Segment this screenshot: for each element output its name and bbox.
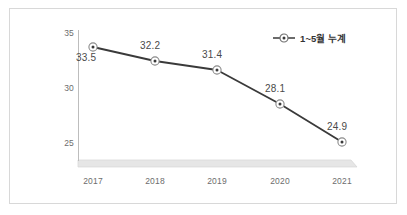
legend-marker-icon bbox=[272, 32, 296, 44]
y-tick-label-25: 25 bbox=[52, 138, 74, 148]
x-tick-label-2017: 2017 bbox=[73, 176, 113, 186]
data-point-2017 bbox=[89, 43, 97, 51]
data-point-2019 bbox=[213, 66, 221, 74]
data-label-2017: 33.5 bbox=[76, 52, 96, 63]
x-tick-label-2020: 2020 bbox=[260, 176, 300, 186]
x-tick-label-2018: 2018 bbox=[135, 176, 175, 186]
y-tick-label-35: 35 bbox=[52, 28, 74, 38]
x-tick-label-2021: 2021 bbox=[322, 176, 362, 186]
series-line-1-5month bbox=[93, 47, 342, 142]
chart-legend: 1~5월 누계 bbox=[272, 30, 346, 45]
y-tick-label-30: 30 bbox=[52, 83, 74, 93]
data-point-2020 bbox=[276, 100, 284, 108]
data-point-2021 bbox=[338, 138, 346, 146]
data-label-2018: 32.2 bbox=[140, 40, 160, 51]
data-point-2018 bbox=[151, 57, 159, 65]
axis-floor-3d bbox=[78, 160, 357, 167]
data-label-2020: 28.1 bbox=[265, 83, 285, 94]
legend-label-1-5month: 1~5월 누계 bbox=[300, 31, 346, 45]
data-label-2019: 31.4 bbox=[202, 49, 222, 60]
x-tick-label-2019: 2019 bbox=[197, 176, 237, 186]
data-label-2021: 24.9 bbox=[327, 121, 347, 132]
